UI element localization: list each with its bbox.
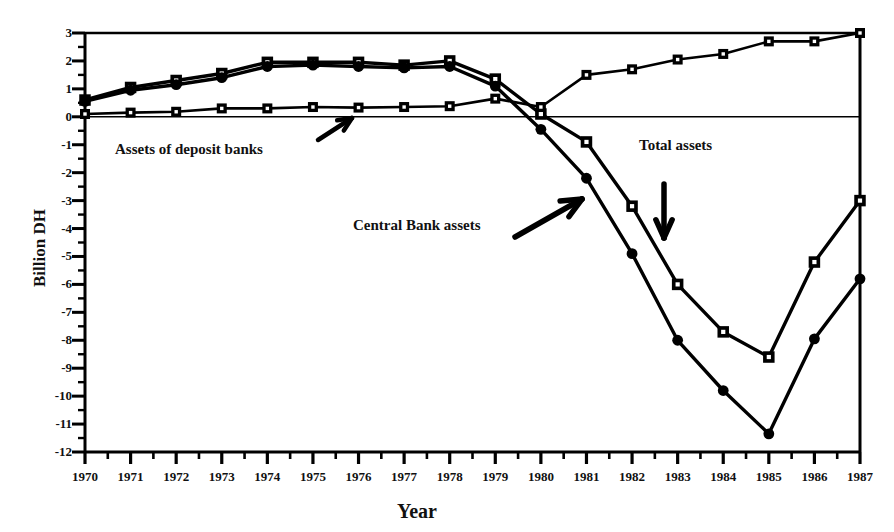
axes-layer	[72, 33, 860, 464]
y-tick-label: -5	[20, 248, 72, 264]
annotation-arrow	[515, 199, 582, 237]
y-tick-label: -1	[20, 137, 72, 153]
y-tick-label: 3	[20, 25, 72, 41]
chart-figure: Billion DH Year 3210-1-2-3-4-5-6-7-8-9-1…	[0, 0, 894, 532]
chart-canvas	[0, 0, 894, 532]
series-3	[80, 28, 865, 119]
y-tick-label: 1	[20, 81, 72, 97]
y-tick-label: -6	[20, 276, 72, 292]
y-tick-label: -9	[20, 360, 72, 376]
annotation-label: Total assets	[639, 137, 712, 154]
y-tick-label: -7	[20, 304, 72, 320]
y-tick-label: -4	[20, 221, 72, 237]
y-tick-label: -3	[20, 193, 72, 209]
annotation-arrow	[656, 184, 672, 238]
y-tick-label: -2	[20, 165, 72, 181]
y-tick-label: -8	[20, 332, 72, 348]
y-tick-label: 2	[20, 53, 72, 69]
y-tick-label: -10	[20, 388, 72, 404]
annotation-label: Central Bank assets	[353, 217, 481, 234]
x-axis-title: Year	[397, 500, 437, 523]
annotation-label: Assets of deposit banks	[115, 141, 263, 158]
x-tick-label: 1987	[831, 469, 889, 485]
y-tick-label: -11	[20, 416, 72, 432]
annotation-arrow	[318, 118, 352, 140]
y-tick-label: -12	[20, 444, 72, 460]
y-tick-label: 0	[20, 109, 72, 125]
